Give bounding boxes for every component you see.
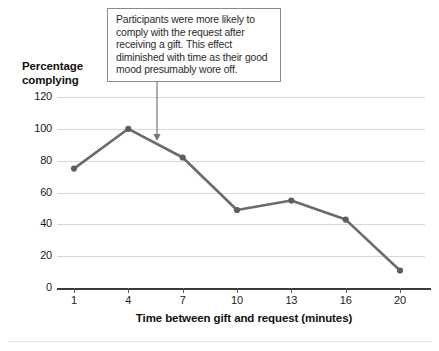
annotation-text: Participants were more likely to comply … [116, 14, 273, 77]
annotation-callout: Participants were more likely to comply … [107, 8, 281, 82]
leader-arrowhead [153, 134, 160, 141]
chart-figure: Percentage complying 0204060801001201471… [0, 0, 439, 351]
footer-divider [8, 341, 432, 342]
x-axis-title: Time between gift and request (minutes) [57, 312, 431, 324]
